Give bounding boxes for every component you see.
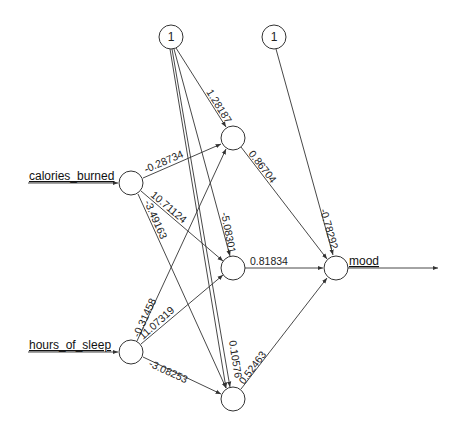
input-label-calories: calories_burned <box>29 169 114 183</box>
weight-b1-h2: -5.08301 <box>219 211 239 254</box>
input-label-sleep: hours_of_sleep <box>29 338 111 352</box>
hidden-node-2 <box>221 256 245 280</box>
weight-cal-h1: -0.28734 <box>142 148 185 175</box>
hidden-node-3 <box>221 387 245 411</box>
weight-sleep-h3: -3.08253 <box>147 357 190 385</box>
weight-h2-out: 0.81834 <box>250 255 288 267</box>
input-node-calories <box>119 171 143 195</box>
weight-b2-out: -0.78292 <box>318 207 341 250</box>
bias-node-1-label: 1 <box>168 30 175 44</box>
input-node-sleep <box>119 340 143 364</box>
weight-b1-h1: 1.28187 <box>204 87 234 126</box>
weight-h1-out: 0.86704 <box>246 148 279 185</box>
bias-node-2-label: 1 <box>271 30 278 44</box>
output-label-mood: mood <box>349 254 379 268</box>
output-node-mood <box>324 256 348 280</box>
hidden-node-1 <box>221 126 245 150</box>
neural-network-diagram: 1 1 calories_burned hours_of_sleep mood … <box>0 0 464 437</box>
